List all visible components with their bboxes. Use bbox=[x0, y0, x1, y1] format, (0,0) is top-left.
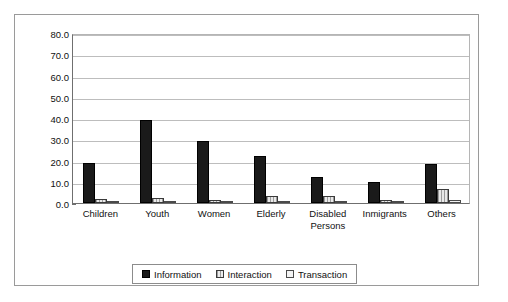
legend-swatch-information-icon bbox=[142, 270, 150, 278]
bar-chart: 0.010.020.030.040.050.060.070.080.0 Chil… bbox=[0, 0, 508, 302]
x-axis-tick-label: Women bbox=[186, 208, 243, 220]
bar-information bbox=[197, 141, 209, 203]
bar-transaction bbox=[278, 201, 290, 203]
legend-label: Interaction bbox=[228, 269, 272, 280]
bar-group bbox=[130, 35, 187, 203]
bar-transaction bbox=[335, 201, 347, 203]
x-axis-tick-label: Others bbox=[413, 208, 470, 220]
y-axis-tick-label: 60.0 bbox=[29, 71, 69, 82]
bar-transaction bbox=[449, 200, 461, 203]
y-axis-tick-label: 40.0 bbox=[29, 114, 69, 125]
legend-item: Transaction bbox=[286, 269, 347, 280]
bar-interaction bbox=[323, 196, 335, 203]
legend-swatch-interaction-icon bbox=[216, 270, 224, 278]
y-axis-tick-label: 80.0 bbox=[29, 29, 69, 40]
bars-layer bbox=[73, 35, 469, 203]
bar-information bbox=[368, 182, 380, 203]
bar-transaction bbox=[107, 201, 119, 203]
bar-group bbox=[414, 35, 471, 203]
bar-group bbox=[300, 35, 357, 203]
y-axis-tick-label: 50.0 bbox=[29, 92, 69, 103]
bar-interaction bbox=[152, 198, 164, 203]
plot-area bbox=[72, 34, 470, 204]
x-axis-labels: ChildrenYouthWomenElderlyDisabled Person… bbox=[72, 208, 470, 242]
x-axis-tick-label: Elderly bbox=[243, 208, 300, 220]
chart-legend: InformationInteractionTransaction bbox=[132, 264, 357, 284]
bar-group bbox=[73, 35, 130, 203]
bar-information bbox=[254, 156, 266, 203]
bar-information bbox=[140, 120, 152, 204]
bar-transaction bbox=[392, 201, 404, 203]
bar-transaction bbox=[164, 201, 176, 203]
legend-swatch-transaction-icon bbox=[286, 270, 294, 278]
legend-item: Interaction bbox=[216, 269, 272, 280]
bar-group bbox=[357, 35, 414, 203]
x-axis-tick-label: Disabled Persons bbox=[299, 208, 356, 231]
bar-interaction bbox=[209, 200, 221, 203]
bar-interaction bbox=[380, 200, 392, 203]
bar-interaction bbox=[437, 189, 449, 203]
legend-label: Information bbox=[154, 269, 202, 280]
bar-group bbox=[187, 35, 244, 203]
bar-group bbox=[244, 35, 301, 203]
bar-interaction bbox=[95, 199, 107, 203]
x-axis-tick-label: Inmigrants bbox=[356, 208, 413, 220]
y-axis-tick-label: 70.0 bbox=[29, 50, 69, 61]
chart-frame: 0.010.020.030.040.050.060.070.080.0 Chil… bbox=[14, 14, 479, 286]
y-axis-tick-label: 0.0 bbox=[29, 199, 69, 210]
y-axis-tick-label: 30.0 bbox=[29, 135, 69, 146]
bar-transaction bbox=[221, 201, 233, 203]
bar-information bbox=[311, 177, 323, 203]
x-axis-tick-label: Children bbox=[72, 208, 129, 220]
legend-item: Information bbox=[142, 269, 202, 280]
bar-interaction bbox=[266, 196, 278, 203]
bar-information bbox=[83, 163, 95, 203]
x-axis-tick-label: Youth bbox=[129, 208, 186, 220]
y-axis-labels: 0.010.020.030.040.050.060.070.080.0 bbox=[29, 27, 69, 211]
legend-label: Transaction bbox=[298, 269, 347, 280]
y-axis-tick-mark bbox=[72, 204, 76, 205]
y-axis-tick-label: 20.0 bbox=[29, 156, 69, 167]
bar-information bbox=[425, 164, 437, 203]
y-axis-tick-label: 10.0 bbox=[29, 177, 69, 188]
